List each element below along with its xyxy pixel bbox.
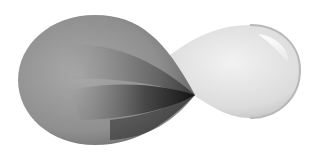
infinity-logo xyxy=(0,0,318,157)
infinity-ribbon-icon xyxy=(0,0,318,157)
